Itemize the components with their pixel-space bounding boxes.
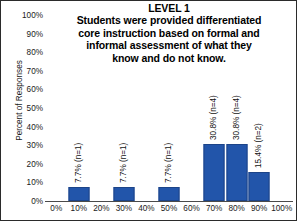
bar-value-label-90pct: 15.4% (n=2) (254, 124, 263, 169)
bar-90pct (249, 172, 270, 201)
bar-slot-10pct: 7.7% (n=1) (68, 15, 91, 201)
y-axis-tick-0pct: 0% (9, 197, 43, 206)
bar-value-label-80pct: 30.8% (n=4) (232, 95, 241, 140)
bar-10pct (68, 187, 89, 201)
bar-30pct (113, 187, 134, 201)
y-axis-tick-80pct: 80% (9, 48, 43, 57)
y-axis-tick-60pct: 60% (9, 85, 43, 94)
bar-chart-figure: LEVEL 1 Students were provided different… (0, 0, 297, 221)
bar-slot-30pct: 7.7% (n=1) (113, 15, 136, 201)
x-axis-tick-30pct: 30% (116, 204, 132, 213)
x-axis-tick-20pct: 20% (93, 204, 109, 213)
bar-50pct (158, 187, 179, 201)
bar-value-label-70pct: 30.8% (n=4) (209, 95, 218, 140)
bar-slot-90pct: 15.4% (n=2) (248, 15, 271, 201)
y-axis-tick-30pct: 30% (9, 141, 43, 150)
x-axis-line (45, 201, 293, 202)
y-axis-tick-100pct: 100% (9, 11, 43, 20)
y-axis-tick-labels: 0%10%20%30%40%50%60%70%80%90%100% (9, 15, 43, 201)
y-axis-tick-40pct: 40% (9, 122, 43, 131)
bar-70pct (204, 144, 225, 201)
y-axis-tick-20pct: 20% (9, 159, 43, 168)
x-axis-tick-80pct: 80% (228, 204, 244, 213)
bar-value-label-10pct: 7.7% (n=1) (74, 142, 83, 182)
bar-value-label-30pct: 7.7% (n=1) (119, 142, 128, 182)
x-axis-tick-60pct: 60% (183, 204, 199, 213)
x-axis-tick-0pct: 0% (50, 204, 62, 213)
x-axis-tick-70pct: 70% (206, 204, 222, 213)
x-axis-tick-100pct: 100% (271, 204, 292, 213)
y-axis-tick-50pct: 50% (9, 104, 43, 113)
x-axis-tick-labels: 0%10%20%30%40%50%60%70%80%90%100% (45, 204, 293, 220)
x-axis-tick-10pct: 10% (71, 204, 87, 213)
x-axis-tick-50pct: 50% (161, 204, 177, 213)
x-axis-tick-40pct: 40% (138, 204, 154, 213)
y-axis-tick-10pct: 10% (9, 178, 43, 187)
bar-slot-80pct: 30.8% (n=4) (225, 15, 248, 201)
x-axis-tick-90pct: 90% (251, 204, 267, 213)
bars-container: 7.7% (n=1)7.7% (n=1)7.7% (n=1)30.8% (n=4… (45, 15, 293, 201)
bar-slot-70pct: 30.8% (n=4) (203, 15, 226, 201)
bar-value-label-50pct: 7.7% (n=1) (164, 142, 173, 182)
bar-slot-50pct: 7.7% (n=1) (158, 15, 181, 201)
y-axis-tick-90pct: 90% (9, 29, 43, 38)
y-axis-tick-70pct: 70% (9, 66, 43, 75)
chart-title: LEVEL 1 (43, 2, 295, 14)
plot-area: 7.7% (n=1)7.7% (n=1)7.7% (n=1)30.8% (n=4… (45, 15, 293, 201)
bar-80pct (226, 144, 247, 201)
